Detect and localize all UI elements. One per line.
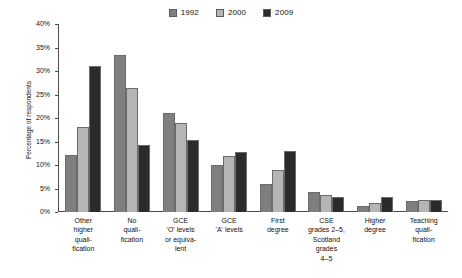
y-tick: 15% (55, 142, 58, 143)
legend-swatch-icon-2000 (216, 9, 224, 17)
x-axis-label-line: quali- (109, 225, 156, 234)
y-axis-title: Percentage of respondents (17, 0, 25, 55)
bar-2000[interactable] (77, 127, 89, 212)
bar-group (254, 24, 303, 212)
y-tick-label: 10% (36, 161, 50, 169)
legend-swatch-icon-2009 (263, 9, 271, 17)
plot-area: 0%5%10%15%20%25%30%35%40% (58, 24, 448, 212)
x-axis-label-line: degree (255, 225, 302, 234)
bar-group (302, 24, 351, 212)
x-axis-label-line: grades 2–5, (303, 225, 350, 234)
bar-2000[interactable] (418, 200, 430, 212)
bar-group (108, 24, 157, 212)
legend-item-1992[interactable]: 1992 (169, 8, 199, 17)
bar-2009[interactable] (187, 140, 199, 212)
bar-2009[interactable] (284, 151, 296, 212)
x-axis-label-line: Teaching (400, 216, 447, 225)
x-axis-label-line: GCE (206, 216, 253, 225)
x-axis-label-line: fication (60, 244, 107, 253)
bar-1992[interactable] (357, 206, 369, 212)
x-axis-label: CSEgrades 2–5,Scotlandgrades4–5 (302, 216, 351, 263)
y-tick-label: 5% (40, 185, 50, 193)
x-axis-label: GCE'A' levels (205, 216, 254, 263)
y-tick: 10% (55, 165, 58, 166)
y-tick-label: 35% (36, 44, 50, 52)
bar-2009[interactable] (332, 197, 344, 212)
x-axis-label-line: grades (303, 244, 350, 253)
y-tick: 35% (55, 48, 58, 49)
x-axis-label-line: higher (60, 225, 107, 234)
x-axis-label-line: 'A' levels (206, 225, 253, 234)
bar-2000[interactable] (175, 123, 187, 212)
x-axis-label: Higherdegree (351, 216, 400, 263)
bar-group (156, 24, 205, 212)
x-axis-label-line: lent (157, 244, 204, 253)
x-axis-label-line: 'O' levels (157, 225, 204, 234)
y-tick: 25% (55, 95, 58, 96)
bar-2009[interactable] (381, 197, 393, 212)
x-axis-label-line: No (109, 216, 156, 225)
legend-label: 1992 (181, 8, 199, 17)
y-tick-label: 30% (36, 67, 50, 75)
x-axis-label: Firstdegree (254, 216, 303, 263)
x-axis-label-line: GCE (157, 216, 204, 225)
bar-2009[interactable] (430, 200, 442, 212)
legend-item-2000[interactable]: 2000 (216, 8, 246, 17)
y-tick: 30% (55, 71, 58, 72)
x-axis-label: GCE'O' levelsor equiva-lent (156, 216, 205, 263)
bar-1992[interactable] (65, 155, 77, 212)
x-axis-label-line: Other (60, 216, 107, 225)
x-axis-label-line: First (255, 216, 302, 225)
x-axis-label: Otherhigherquali-fication (59, 216, 108, 263)
bar-2000[interactable] (223, 156, 235, 212)
y-tick: 0% (55, 212, 58, 213)
y-tick-label: 15% (36, 138, 50, 146)
x-axis-label: Noquali-fication (108, 216, 157, 263)
y-tick: 5% (55, 189, 58, 190)
x-axis-label-line: 4–5 (303, 254, 350, 263)
bar-2009[interactable] (235, 152, 247, 212)
y-tick-label: 40% (36, 20, 50, 28)
bar-2000[interactable] (369, 203, 381, 212)
bar-1992[interactable] (211, 165, 223, 212)
x-axis-label-line: quali- (60, 235, 107, 244)
legend-label: 2009 (275, 8, 293, 17)
x-axis-label-line: or equiva- (157, 235, 204, 244)
legend-item-2009[interactable]: 2009 (263, 8, 293, 17)
bar-group (205, 24, 254, 212)
bar-2000[interactable] (320, 195, 332, 212)
bar-2009[interactable] (138, 145, 150, 212)
legend-label: 2000 (228, 8, 246, 17)
x-axis-label-line: fication (400, 235, 447, 244)
x-axis-label-line: fication (109, 235, 156, 244)
bar-group (351, 24, 400, 212)
bar-group (59, 24, 108, 212)
y-tick: 40% (55, 24, 58, 25)
bar-groups (59, 24, 448, 212)
bar-1992[interactable] (308, 192, 320, 212)
x-axis-label-line: Higher (352, 216, 399, 225)
x-axis-label: Teachingquali-fication (399, 216, 448, 263)
bar-2000[interactable] (126, 88, 138, 212)
y-tick-label: 20% (36, 114, 50, 122)
bar-1992[interactable] (260, 184, 272, 212)
y-axis-title-text: Percentage of respondents (25, 55, 33, 185)
bar-2000[interactable] (272, 170, 284, 212)
legend-swatch-icon-1992 (169, 9, 177, 17)
x-axis-label-line: Scotland (303, 235, 350, 244)
x-axis-labels: Otherhigherquali-ficationNoquali-ficatio… (59, 216, 448, 263)
bar-2009[interactable] (89, 66, 101, 212)
bar-1992[interactable] (406, 201, 418, 212)
chart-legend: 199220002009 (0, 8, 462, 17)
bar-chart: 199220002009 Percentage of respondents 0… (0, 0, 462, 278)
y-tick-label: 25% (36, 91, 50, 99)
x-axis-label-line: quali- (400, 225, 447, 234)
bar-group (399, 24, 448, 212)
y-tick-label: 0% (40, 208, 50, 216)
y-tick: 20% (55, 118, 58, 119)
bar-1992[interactable] (114, 55, 126, 212)
bar-1992[interactable] (163, 113, 175, 212)
x-axis-label-line: CSE (303, 216, 350, 225)
x-axis-label-line: degree (352, 225, 399, 234)
